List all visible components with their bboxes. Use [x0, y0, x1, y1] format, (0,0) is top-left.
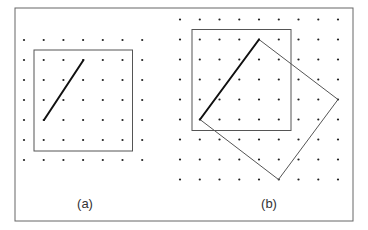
grid-dot — [82, 39, 84, 41]
grid-dot — [179, 58, 181, 60]
grid-dot — [218, 138, 220, 140]
grid-dot — [317, 58, 319, 60]
grid-dot — [199, 78, 201, 80]
grid-dot — [317, 38, 319, 40]
grid-dot — [179, 38, 181, 40]
grid-dot — [141, 119, 143, 121]
bold-segment-a — [44, 60, 84, 120]
grid-dot — [297, 58, 299, 60]
grid-dot — [43, 99, 45, 101]
grid-dot — [102, 139, 104, 141]
grid-dot — [238, 158, 240, 160]
square-b — [192, 30, 291, 131]
grid-dot — [218, 38, 220, 40]
grid-dot — [62, 59, 64, 61]
grid-dot — [337, 78, 339, 80]
grid-dot — [102, 59, 104, 61]
grid-dot — [43, 139, 45, 141]
grid-dot — [62, 139, 64, 141]
grid-dot — [62, 119, 64, 121]
grid-dot — [121, 79, 123, 81]
grid-dot — [297, 18, 299, 20]
grid-dot — [121, 159, 123, 161]
grid-dot — [179, 138, 181, 140]
grid-dot — [218, 178, 220, 180]
grid-dot — [258, 98, 260, 100]
grid-dot — [102, 99, 104, 101]
grid-dot — [238, 78, 240, 80]
grid-dot — [337, 138, 339, 140]
grid-dot — [199, 18, 201, 20]
grid-dot — [121, 99, 123, 101]
grid-dot — [179, 178, 181, 180]
grid-dot — [258, 78, 260, 80]
grid-dot — [141, 59, 143, 61]
grid-dot — [23, 119, 25, 121]
grid-dot — [43, 59, 45, 61]
grid-dot — [337, 158, 339, 160]
panel-b: (b) — [179, 18, 339, 211]
dot-grid-b — [179, 18, 339, 180]
grid-dot — [141, 79, 143, 81]
grid-dot — [82, 99, 84, 101]
grid-dot — [297, 38, 299, 40]
grid-dot — [218, 158, 220, 160]
grid-dot — [62, 159, 64, 161]
grid-dot — [199, 138, 201, 140]
grid-dot — [278, 158, 280, 160]
grid-dot — [102, 119, 104, 121]
grid-dot — [179, 78, 181, 80]
grid-dot — [218, 78, 220, 80]
grid-dot — [317, 78, 319, 80]
grid-dot — [278, 58, 280, 60]
grid-dot — [179, 158, 181, 160]
grid-dot — [258, 178, 260, 180]
rotated-square-b — [200, 40, 338, 180]
grid-dot — [258, 118, 260, 120]
grid-dot — [317, 98, 319, 100]
grid-dot — [218, 118, 220, 120]
grid-dot — [278, 98, 280, 100]
grid-dot — [238, 98, 240, 100]
grid-dot — [23, 39, 25, 41]
grid-dot — [141, 39, 143, 41]
grid-dot — [297, 138, 299, 140]
grid-dot — [82, 119, 84, 121]
grid-dot — [278, 118, 280, 120]
grid-dot — [141, 159, 143, 161]
panel-a: (a) — [23, 39, 143, 211]
grid-dot — [23, 79, 25, 81]
grid-dot — [82, 159, 84, 161]
grid-dot — [337, 178, 339, 180]
grid-dot — [23, 159, 25, 161]
grid-dot — [121, 119, 123, 121]
dot-grid-a — [23, 39, 143, 161]
grid-dot — [258, 158, 260, 160]
panel-label-a: (a) — [77, 196, 93, 211]
grid-dot — [218, 98, 220, 100]
figure-frame — [15, 8, 353, 221]
grid-dot — [317, 138, 319, 140]
panel-label-b: (b) — [261, 196, 277, 211]
grid-dot — [337, 18, 339, 20]
grid-dot — [62, 99, 64, 101]
grid-dot — [62, 79, 64, 81]
grid-dot — [317, 158, 319, 160]
grid-dot — [43, 159, 45, 161]
grid-dot — [258, 138, 260, 140]
grid-dot — [278, 18, 280, 20]
grid-dot — [62, 39, 64, 41]
grid-dot — [82, 79, 84, 81]
grid-dot — [238, 18, 240, 20]
grid-dot — [297, 98, 299, 100]
grid-dot — [179, 98, 181, 100]
grid-dot — [102, 39, 104, 41]
grid-dot — [121, 39, 123, 41]
grid-dot — [238, 38, 240, 40]
grid-dot — [238, 118, 240, 120]
grid-dot — [297, 118, 299, 120]
grid-dot — [121, 139, 123, 141]
grid-dot — [179, 18, 181, 20]
grid-dot — [121, 59, 123, 61]
grid-dot — [23, 139, 25, 141]
